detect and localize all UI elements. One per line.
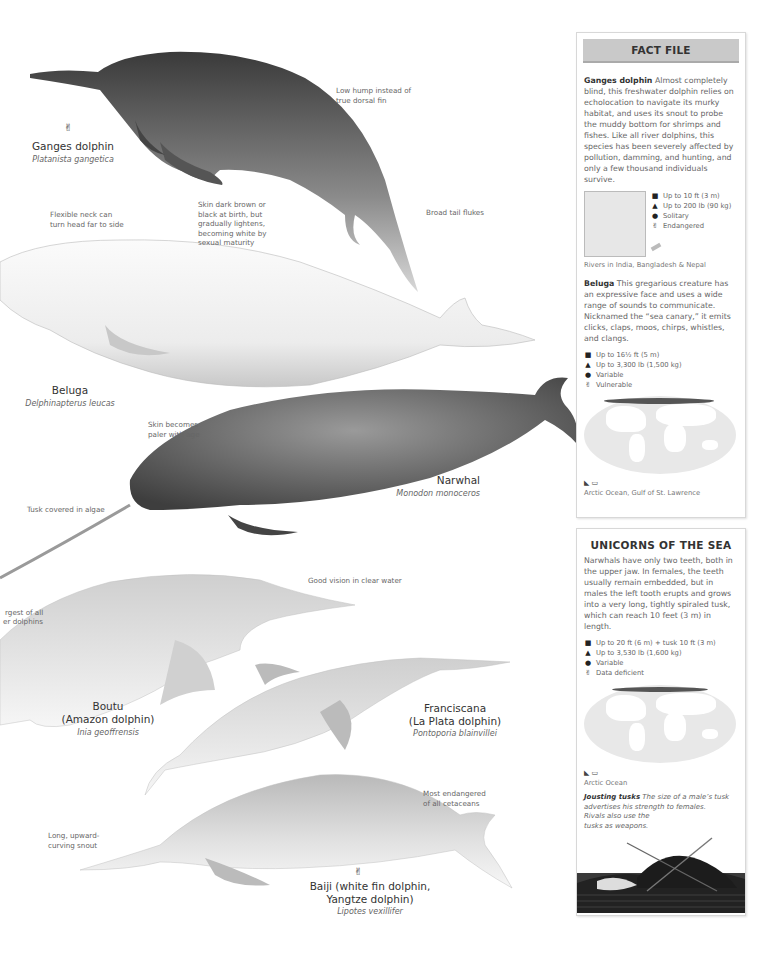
- habitat-icons: ◣ ▭: [584, 769, 738, 777]
- habitat-icons: ◣ ▭: [584, 479, 738, 487]
- jousting-narwhals-photo: [577, 833, 745, 913]
- ganges-fact-group: ●Solitary: [651, 211, 731, 221]
- boutu-scientific-name: Inia geoffrensis: [48, 727, 168, 738]
- length-icon: ■: [584, 350, 592, 360]
- beluga-fact-group: ●Variable: [584, 370, 738, 380]
- beluga-fact-status: ✌Vulnerable: [584, 380, 738, 390]
- narwhal-range: Arctic Ocean: [584, 779, 738, 787]
- length-icon: ■: [651, 191, 659, 201]
- narwhal-scientific-name: Monodon monoceros: [388, 488, 480, 499]
- narwhal-fact-status: ✌Data deficient: [584, 668, 738, 678]
- beluga-fact-name: Beluga: [584, 279, 614, 288]
- annotation-flexible-neck: Flexible neck can turn head far to side: [50, 210, 128, 229]
- narwhal-fact-weight: ▲Up to 3,530 lb (1,600 kg): [584, 648, 738, 658]
- beluga-fact-weight: ▲Up to 3,300 lb (1,500 kg): [584, 360, 738, 370]
- beluga-world-map: [584, 396, 736, 474]
- ganges-common-name: Ganges dolphin: [18, 140, 128, 153]
- annotation-low-hump: Low hump instead of true dorsal fin: [336, 86, 416, 105]
- beluga-scientific-name: Delphinapterus leucas: [10, 398, 130, 409]
- narwhal-fact-length: ■Up to 20 ft (6 m) + tusk 10 ft (3 m): [584, 638, 738, 648]
- jousting-text-3: tusks as weapons.: [584, 822, 648, 830]
- narwhal-world-map: [584, 685, 736, 763]
- beluga-fact-length: ■Up to 16½ ft (5 m): [584, 350, 738, 360]
- fact-file-header: FACT FILE: [583, 39, 739, 63]
- ganges-scientific-name: Platanista gangetica: [18, 154, 128, 165]
- franciscana-scientific-name: Pontoporia blainvillei: [395, 728, 515, 739]
- ganges-fact-status: ✌Endangered: [651, 221, 731, 231]
- endangered-icon: ✌: [354, 866, 362, 877]
- ganges-range: Rivers in India, Bangladesh & Nepal: [584, 261, 738, 269]
- group-icon: ●: [584, 370, 592, 380]
- annotation-largest-line2: er dolphins: [3, 617, 63, 627]
- ganges-fact-text: Almost completely blind, this freshwater…: [584, 76, 734, 184]
- status-icon: ✌: [584, 380, 592, 390]
- unicorns-text: Narwhals have only two teeth, both in th…: [584, 555, 738, 632]
- annotation-most-endangered: Most endangered of all cetaceans: [423, 789, 487, 808]
- weight-icon: ▲: [584, 648, 592, 658]
- annotation-skin-dark: Skin dark brown or black at birth, but g…: [198, 200, 286, 248]
- ganges-description: Ganges dolphin Almost completely blind, …: [584, 75, 738, 185]
- ganges-range-map: [584, 191, 646, 257]
- fact-file-title: FACT FILE: [631, 44, 690, 56]
- annotation-long-snout: Long, upward-curving snout: [48, 831, 104, 850]
- annotation-skin-paler: Skin becomes paler with age: [148, 420, 200, 439]
- baiji-scientific-name: Lipotes vexillifer: [310, 906, 430, 917]
- ganges-fact-name: Ganges dolphin: [584, 76, 652, 85]
- fact-file-card: FACT FILE Ganges dolphin Almost complete…: [576, 32, 746, 518]
- beluga-description: Beluga This gregarious creature has an e…: [584, 278, 738, 344]
- ganges-fact-weight: ▲Up to 200 lb (90 kg): [651, 201, 731, 211]
- narwhal-fact-group: ●Variable: [584, 658, 738, 668]
- baiji-common-name-1: Baiji (white fin dolphin,: [290, 880, 450, 893]
- beluga-range: Arctic Ocean, Gulf of St. Lawrence: [584, 489, 738, 497]
- length-icon: ■: [584, 638, 592, 648]
- beluga-fact-text: This gregarious creature has an expressi…: [584, 279, 731, 343]
- boutu-common-name-1: Boutu: [48, 700, 168, 713]
- annotation-good-vision: Good vision in clear water: [308, 576, 418, 586]
- unicorns-title: UNICORNS OF THE SEA: [577, 539, 745, 551]
- weight-icon: ▲: [651, 201, 659, 211]
- baiji-common-name-2: Yangtze dolphin): [300, 893, 440, 906]
- jousting-caption: Jousting tusks The size of a male’s tusk…: [584, 793, 738, 831]
- annotation-tusk-algae: Tusk covered in algae: [27, 505, 137, 515]
- group-icon: ●: [584, 658, 592, 668]
- unicorns-card: UNICORNS OF THE SEA Narwhals have only t…: [576, 528, 746, 916]
- weight-icon: ▲: [584, 360, 592, 370]
- jousting-text-2: Rivals also use the: [584, 812, 650, 820]
- endangered-icon: ✌: [64, 122, 72, 133]
- jousting-title: Jousting tusks: [584, 793, 640, 801]
- status-icon: ✌: [651, 221, 659, 231]
- annotation-broad-tail: Broad tail flukes: [426, 208, 506, 218]
- group-icon: ●: [651, 211, 659, 221]
- franciscana-common-name-1: Franciscana: [400, 702, 510, 715]
- narwhal-common-name: Narwhal: [410, 474, 480, 487]
- beluga-common-name: Beluga: [20, 384, 120, 397]
- ganges-fact-length: ■Up to 10 ft (3 m): [651, 191, 731, 201]
- boutu-common-name-2: (Amazon dolphin): [38, 713, 178, 726]
- river-icon: [651, 243, 662, 251]
- status-icon: ✌: [584, 668, 592, 678]
- franciscana-common-name-2: (La Plata dolphin): [390, 715, 520, 728]
